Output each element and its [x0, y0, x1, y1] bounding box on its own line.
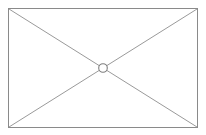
center-circle-marker — [99, 64, 108, 73]
placeholder-graphic-svg — [0, 0, 206, 135]
placeholder-graphic-canvas: missing-image-placeholder — [0, 0, 206, 135]
